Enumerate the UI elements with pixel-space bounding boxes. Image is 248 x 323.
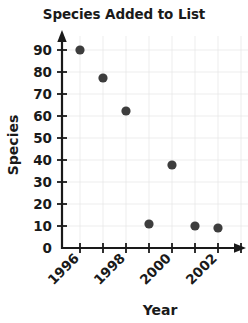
- y-tick-label: 30: [33, 174, 52, 190]
- y-tick-label: 10: [33, 218, 52, 234]
- data-point: [75, 45, 84, 54]
- grid-vertical: [80, 36, 241, 248]
- y-tick-label: 50: [33, 130, 52, 146]
- data-point: [121, 106, 130, 115]
- x-tick-labels: 1996 1998 2000 2002: [44, 250, 220, 288]
- y-tick-label: 90: [33, 42, 52, 58]
- grid-horizontal: [62, 50, 248, 226]
- y-tick-label: 20: [33, 196, 52, 212]
- data-point: [190, 221, 199, 230]
- data-point: [98, 73, 107, 82]
- y-tick-label: 70: [33, 86, 52, 102]
- chart-container: Species Added to List: [0, 0, 248, 323]
- y-tick-label: 60: [33, 108, 52, 124]
- y-tick-label: 0: [43, 240, 52, 256]
- y-tick-label: 40: [33, 152, 52, 168]
- y-tick-label: 80: [33, 64, 52, 80]
- scatter-plot: 90 80 70 60 50 40 30 20 10 0 1996 1998 2…: [0, 0, 248, 323]
- y-axis: [57, 30, 66, 249]
- data-point: [213, 223, 222, 232]
- data-point: [167, 160, 176, 169]
- y-axis-title: Species: [5, 115, 21, 176]
- x-tick-label: 2000: [136, 250, 174, 288]
- x-tick-label: 2002: [182, 250, 220, 288]
- y-tick-labels: 90 80 70 60 50 40 30 20 10 0: [33, 42, 52, 256]
- x-tick-label: 1998: [90, 250, 128, 288]
- x-axis-title: Year: [142, 302, 178, 318]
- data-point: [144, 219, 153, 228]
